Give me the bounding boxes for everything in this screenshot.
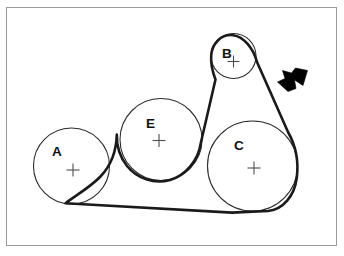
pulley-A-label: A	[52, 144, 62, 159]
pulley-A-center-cross	[67, 164, 80, 177]
belt-direction-arrow-icon	[278, 68, 308, 92]
pulley-C-label: C	[234, 138, 244, 153]
pulley-C-outline	[208, 121, 298, 211]
pulley-A-outline	[34, 128, 110, 204]
pulley-labels: A E B C	[52, 46, 244, 159]
pulley-C-center-cross	[248, 162, 261, 175]
pulley-E-center-cross	[153, 134, 166, 147]
pulley-B-label: B	[222, 46, 232, 61]
pulley-center-marks	[67, 56, 261, 177]
belt-pulley-diagram: A E B C	[0, 0, 344, 256]
pulley-E-label: E	[146, 116, 155, 131]
pulley-outlines	[34, 34, 298, 212]
figure-root: A E B C	[0, 0, 344, 256]
belt-loop	[66, 35, 298, 213]
